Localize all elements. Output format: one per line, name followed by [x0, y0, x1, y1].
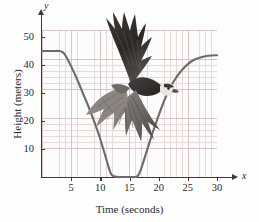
osprey-bird-illustration	[80, 4, 180, 154]
graph-figure: y x 51015202530 1020304050	[0, 0, 259, 222]
y-axis-title: Height (meters)	[11, 39, 23, 169]
x-axis-title: Time (seconds)	[0, 203, 259, 215]
